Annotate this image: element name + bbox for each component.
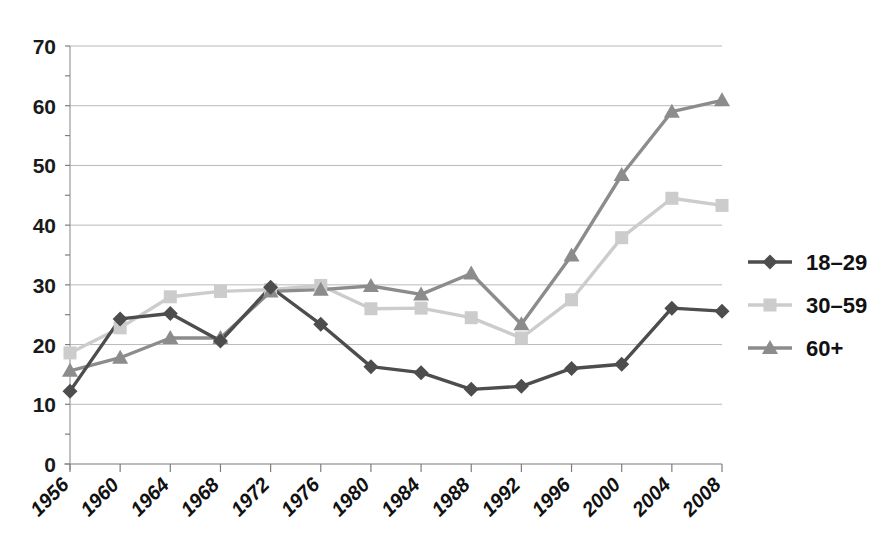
- x-tick-label-2000: 2000: [577, 473, 625, 521]
- series-marker-18–29-1992: [514, 379, 529, 394]
- x-tick-label-1960: 1960: [76, 473, 123, 520]
- x-tick-label-1996: 1996: [527, 473, 575, 521]
- series-marker-30–59-1956: [64, 346, 77, 359]
- series-line-30–59: [70, 198, 722, 353]
- series-marker-18–29-2008: [715, 304, 730, 319]
- series-marker-18–29-1984: [414, 365, 429, 380]
- x-tick-label-1964: 1964: [126, 473, 173, 520]
- x-tick-label-1968: 1968: [176, 473, 224, 521]
- y-tick-label-50: 50: [33, 154, 56, 177]
- y-tick-label-20: 20: [33, 334, 56, 357]
- legend-label-60+: 60+: [806, 336, 843, 361]
- series-marker-30–59-1988: [465, 311, 478, 324]
- x-tick-label-1956: 1956: [26, 473, 74, 521]
- y-tick-label-10: 10: [33, 393, 56, 416]
- y-axis-tick-labels: 010203040506070: [33, 35, 56, 476]
- y-tick-label-60: 60: [33, 95, 56, 118]
- x-tick-label-1988: 1988: [427, 473, 475, 521]
- series-lines-group: [70, 100, 722, 391]
- legend-marker-30–59: [764, 299, 777, 312]
- series-marker-30–59-2000: [615, 231, 628, 244]
- y-tick-label-0: 0: [44, 453, 56, 476]
- series-marker-18–29-1988: [464, 382, 479, 397]
- axes-group: [64, 46, 722, 472]
- x-tick-label-2004: 2004: [627, 473, 675, 521]
- x-tick-label-1972: 1972: [226, 473, 273, 520]
- gridlines-group: [70, 46, 722, 464]
- x-tick-label-2008: 2008: [677, 473, 725, 521]
- series-marker-30–59-2008: [716, 199, 729, 212]
- y-tick-label-70: 70: [33, 35, 56, 58]
- x-tick-label-1976: 1976: [277, 473, 325, 521]
- x-tick-label-1984: 1984: [377, 473, 424, 520]
- series-marker-18–29-1996: [564, 361, 579, 376]
- legend-label-18–29: 18–29: [806, 250, 867, 275]
- series-marker-30–59-1980: [364, 302, 377, 315]
- series-marker-30–59-1964: [164, 290, 177, 303]
- chart-canvas: 010203040506070 195619601964196819721976…: [0, 0, 883, 557]
- series-marker-30–59-1996: [565, 293, 578, 306]
- series-marker-30–59-1992: [515, 332, 528, 345]
- x-tick-label-1980: 1980: [327, 473, 374, 520]
- x-axis-tick-labels: 1956196019641968197219761980198419881992…: [26, 473, 726, 521]
- series-marker-60+-1988: [463, 266, 479, 280]
- legend-label-30–59: 30–59: [806, 293, 867, 318]
- series-marker-30–59-1968: [214, 285, 227, 298]
- series-marker-30–59-1984: [415, 302, 428, 315]
- legend-marker-18–29: [763, 255, 778, 270]
- y-tick-label-30: 30: [33, 274, 56, 297]
- y-tick-label-40: 40: [33, 214, 56, 237]
- line-chart: 010203040506070 195619601964196819721976…: [0, 0, 883, 557]
- chart-legend: 18–2930–5960+: [748, 250, 867, 361]
- series-marker-30–59-2004: [665, 192, 678, 205]
- series-marker-60+-2008: [714, 92, 730, 106]
- series-marker-18–29-1964: [163, 306, 178, 321]
- x-tick-label-1992: 1992: [477, 473, 524, 520]
